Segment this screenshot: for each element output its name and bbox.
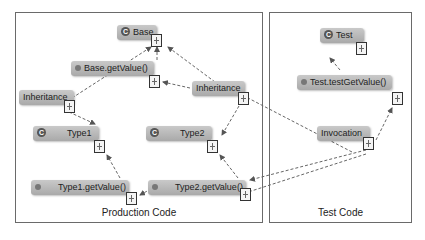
class-icon: C bbox=[150, 128, 159, 137]
expand-toggle-test[interactable] bbox=[356, 42, 367, 55]
node-label: Test.testGetValue() bbox=[310, 77, 386, 87]
edge-test-testgetvalue-to-test bbox=[330, 58, 340, 70]
expand-toggle-inheritance-left[interactable] bbox=[64, 100, 75, 113]
method-icon bbox=[301, 79, 307, 85]
node-label: Type1 bbox=[67, 128, 92, 138]
node-label: Inheritance bbox=[23, 92, 68, 102]
expand-toggle-base-getvalue[interactable] bbox=[149, 75, 160, 88]
expand-toggle-type1-getvalue[interactable] bbox=[126, 192, 137, 205]
edge-inheritance-mid-to-type2 bbox=[222, 106, 239, 135]
edge-inheritance-mid-to-base-getvalue bbox=[163, 82, 190, 88]
node-test[interactable]: CTest bbox=[320, 28, 364, 43]
expand-toggle-type1[interactable] bbox=[94, 140, 105, 153]
edge-type1-getvalue-to-type1 bbox=[107, 155, 120, 178]
expand-toggle-type2-getvalue[interactable] bbox=[240, 188, 251, 201]
node-type2[interactable]: CType2 bbox=[146, 126, 212, 141]
edge-invocation-to-inheritance-mid bbox=[248, 98, 352, 152]
node-type2-getvalue[interactable]: Type2.getValue() bbox=[148, 180, 246, 195]
node-label: Type2 bbox=[180, 128, 205, 138]
expand-toggle-invocation[interactable] bbox=[363, 137, 374, 150]
edge-invocation-to-test-testgetvalue bbox=[376, 108, 392, 140]
edge-inheritance-left-to-type1 bbox=[69, 112, 95, 124]
node-label: Base.getValue() bbox=[84, 63, 148, 73]
expand-toggle-type2[interactable] bbox=[207, 140, 218, 153]
method-icon bbox=[35, 184, 41, 190]
node-type1-getvalue[interactable]: Type1.getValue() bbox=[31, 180, 129, 195]
node-test-testgetvalue[interactable]: Test.testGetValue() bbox=[297, 75, 392, 90]
node-label: Test bbox=[336, 30, 353, 40]
node-type1[interactable]: CType1 bbox=[33, 126, 99, 141]
class-icon: C bbox=[324, 30, 333, 39]
class-icon: C bbox=[121, 27, 130, 36]
node-label: Invocation bbox=[321, 128, 362, 138]
node-label: Type1.getValue() bbox=[58, 182, 126, 192]
method-icon bbox=[152, 184, 158, 190]
node-label: Inheritance bbox=[196, 83, 241, 93]
edge-type2-getvalue-to-type2 bbox=[220, 155, 238, 178]
expand-toggle-base[interactable] bbox=[151, 34, 162, 47]
class-icon: C bbox=[37, 128, 46, 137]
edge-inheritance-mid-to-base bbox=[168, 47, 215, 82]
node-label: Type2.getValue() bbox=[175, 182, 243, 192]
method-icon bbox=[75, 65, 81, 71]
expand-toggle-inheritance-mid[interactable] bbox=[238, 92, 249, 105]
node-base-getvalue[interactable]: Base.getValue() bbox=[71, 61, 154, 76]
edge-invocation-to-type1-getvalue bbox=[242, 154, 366, 194]
expand-toggle-test-testgetvalue[interactable] bbox=[392, 92, 403, 105]
edge-invocation-to-type2-getvalue bbox=[250, 150, 366, 180]
